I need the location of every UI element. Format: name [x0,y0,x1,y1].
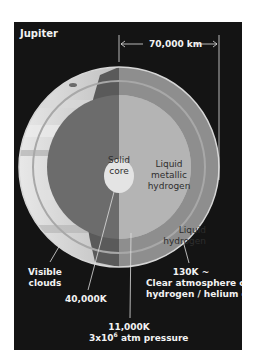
diagram-frame: Jupiter 70,000 km Solid core Liquid meta… [14,22,242,350]
liquid-hydrogen-label: Liquid hydrogen [142,225,206,247]
boundary-label: 11,000K 3x106 atm pressure [89,322,169,344]
core-label: Solid core [106,155,132,177]
atmosphere-label: 130K ~ Clear atmosphere of hydrogen / he… [146,267,236,300]
diagram-title: Jupiter [20,28,58,39]
jupiter-cutaway-illustration [14,22,242,350]
metallic-hydrogen-label: Liquid metallic hydrogen [142,159,196,192]
core-temperature-label: 40,000K [65,294,107,305]
visible-clouds-label: Visible clouds [28,267,62,289]
diameter-label: 70,000 km [149,39,202,50]
